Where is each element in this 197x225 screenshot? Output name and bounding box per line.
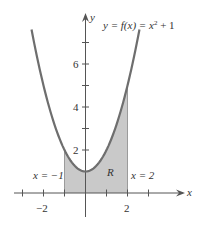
y-tick-label-4: 4: [73, 101, 79, 113]
y-axis-label: y: [89, 11, 95, 23]
function-label: y = f(x) = x2 + 1: [102, 19, 175, 32]
y-tick-label-6: 6: [73, 58, 79, 70]
chart-figure: y x y = f(x) = x2 + 1 x = −1 x = 2 R −2 …: [0, 0, 197, 225]
region-label: R: [106, 166, 114, 178]
x-tick-label-2: 2: [124, 202, 130, 214]
y-tick-label-2: 2: [73, 144, 79, 156]
right-bound-label: x = 2: [130, 169, 155, 181]
x-axis-label: x: [186, 186, 192, 198]
x-tick-label-neg2: −2: [36, 202, 48, 214]
function-label-rhs: + 1: [157, 19, 174, 31]
left-bound-label: x = −1: [32, 169, 64, 181]
function-label-lhs: y = f(x) = x: [102, 19, 154, 32]
